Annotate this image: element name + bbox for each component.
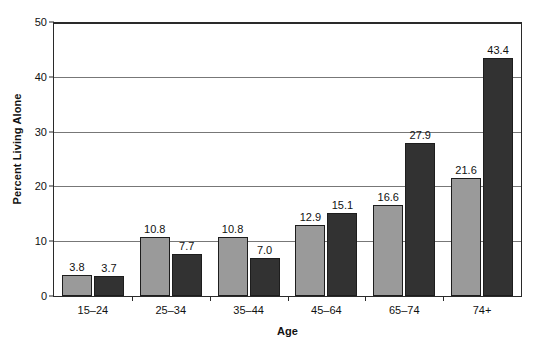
plot-area: 01020304050 3.83.710.87.710.87.012.915.1… xyxy=(53,22,522,297)
x-tick-mark xyxy=(288,296,289,301)
bar-value-label: 10.8 xyxy=(222,223,243,235)
x-tick-mark xyxy=(443,296,444,301)
x-tick-label: 25–34 xyxy=(155,304,186,316)
bar-women[interactable]: 7.0 xyxy=(250,258,280,296)
bar-value-label: 7.0 xyxy=(257,244,272,256)
bar-group: 10.87.0 xyxy=(210,22,288,296)
y-axis-title: Percent Living Alone xyxy=(6,0,26,297)
bar-men[interactable]: 16.6 xyxy=(373,205,403,296)
y-tick-label-50: 50 xyxy=(35,16,54,28)
x-tick-label: 45–64 xyxy=(311,304,342,316)
bar-value-label: 21.6 xyxy=(455,164,476,176)
bar-men[interactable]: 3.8 xyxy=(62,275,92,296)
bar-men[interactable]: 10.8 xyxy=(218,237,248,296)
x-tick-label: 65–74 xyxy=(389,304,420,316)
y-tick-label-0: 0 xyxy=(41,290,54,302)
y-tick-label-40: 40 xyxy=(35,71,54,83)
bar-group: 16.627.9 xyxy=(365,22,443,296)
bar-group: 12.915.1 xyxy=(288,22,366,296)
x-tick-mark xyxy=(365,296,366,301)
bar-value-label: 16.6 xyxy=(378,191,399,203)
bar-value-label: 15.1 xyxy=(332,199,353,211)
x-tick-label: 35–44 xyxy=(233,304,264,316)
bar-value-label: 27.9 xyxy=(410,129,431,141)
bar-group: 3.83.7 xyxy=(54,22,132,296)
x-tick-label: 15–24 xyxy=(78,304,109,316)
y-tick-label-10: 10 xyxy=(35,235,54,247)
bar-women[interactable]: 27.9 xyxy=(405,143,435,296)
bar-women[interactable]: 15.1 xyxy=(327,213,357,296)
bar-group: 21.643.4 xyxy=(443,22,521,296)
bar-value-label: 43.4 xyxy=(487,44,508,56)
bar-value-label: 7.7 xyxy=(179,240,194,252)
y-tick-label-20: 20 xyxy=(35,180,54,192)
bar-value-label: 12.9 xyxy=(300,211,321,223)
bar-value-label: 3.8 xyxy=(69,261,84,273)
bar-men[interactable]: 21.6 xyxy=(451,178,481,296)
bar-women[interactable]: 3.7 xyxy=(94,276,124,296)
x-tick-label: 74+ xyxy=(473,304,492,316)
bar-women[interactable]: 43.4 xyxy=(483,58,513,296)
y-axis-title-text: Percent Living Alone xyxy=(10,93,22,204)
bar-chart-figure: Percent Living Alone Men Women 010203040… xyxy=(0,0,543,347)
x-axis-title: Age xyxy=(53,325,522,337)
bar-series-container: 3.83.710.87.710.87.012.915.116.627.921.6… xyxy=(54,22,521,296)
bar-value-label: 10.8 xyxy=(144,223,165,235)
y-tick-label-30: 30 xyxy=(35,126,54,138)
x-tick-mark xyxy=(210,296,211,301)
x-tick-mark xyxy=(132,296,133,301)
bar-women[interactable]: 7.7 xyxy=(172,254,202,296)
bar-men[interactable]: 10.8 xyxy=(140,237,170,296)
bar-men[interactable]: 12.9 xyxy=(295,225,325,296)
bar-group: 10.87.7 xyxy=(132,22,210,296)
bar-value-label: 3.7 xyxy=(101,262,116,274)
